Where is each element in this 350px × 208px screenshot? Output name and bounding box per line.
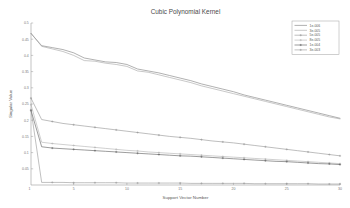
series-marker [73, 144, 75, 146]
series-marker [158, 134, 160, 136]
series-marker [158, 182, 160, 184]
series-marker [307, 151, 309, 153]
series-marker [73, 182, 75, 184]
series-marker [339, 155, 341, 157]
legend-label-8e-005: 8e-005 [310, 38, 321, 42]
series-marker [73, 148, 75, 150]
series-marker [286, 161, 288, 163]
y-tick-label: 0.2 [24, 119, 29, 123]
x-tick-label: 10 [125, 187, 129, 191]
series-marker [264, 183, 266, 185]
chart-title: Cubic Polynomial Kernel [151, 8, 221, 16]
series-marker [158, 152, 160, 154]
series-marker [115, 182, 117, 184]
series-marker [264, 146, 266, 148]
series-marker [243, 143, 245, 145]
plot-area: Cubic Polynomial Kernel0.050.10.150.20.2… [8, 8, 342, 200]
y-axis-label: Singular Value [8, 89, 13, 118]
series-marker [222, 182, 224, 184]
series-marker [243, 158, 245, 160]
series-marker [286, 148, 288, 150]
series-marker [179, 153, 181, 155]
y-tick-label: 0.5 [24, 21, 29, 25]
series-line-3e-003 [31, 110, 340, 184]
series-marker [136, 150, 138, 152]
y-tick-label: 0.1 [24, 151, 29, 155]
x-tick-label: 15 [178, 187, 182, 191]
series-marker [136, 131, 138, 133]
series-marker [243, 182, 245, 184]
series-marker [158, 153, 160, 155]
series-marker [94, 126, 96, 128]
chart-figure: Cubic Polynomial Kernel0.050.10.150.20.2… [0, 0, 350, 208]
series-marker [94, 182, 96, 184]
x-tick-label: 25 [285, 187, 289, 191]
x-tick-label: 5 [73, 187, 75, 191]
series-marker [179, 155, 181, 157]
x-tick-label: 1 [29, 187, 31, 191]
y-tick-label: 0.3 [24, 86, 29, 90]
series-marker [200, 182, 202, 184]
series-marker [200, 139, 202, 141]
series-marker [115, 129, 117, 131]
y-tick-label: 0.05 [22, 167, 29, 171]
y-tick-label: 0.4 [24, 54, 29, 58]
y-tick-label: 0.35 [22, 70, 29, 74]
series-marker [73, 124, 75, 126]
series-marker [136, 152, 138, 154]
series-marker [136, 182, 138, 184]
series-marker [51, 181, 53, 183]
chart-canvas: Cubic Polynomial Kernel0.050.10.150.20.2… [0, 0, 350, 208]
series-marker [51, 147, 53, 149]
legend-label-3e-003: 3e-003 [310, 48, 321, 52]
series-marker [51, 142, 53, 144]
series-marker [30, 97, 32, 99]
series-marker [179, 182, 181, 184]
y-tick-label: 0.15 [22, 135, 29, 139]
series-marker [264, 160, 266, 162]
series-marker [286, 183, 288, 185]
series-marker [94, 150, 96, 152]
legend-label-5e-005: 5e-005 [310, 33, 321, 37]
series-marker [307, 162, 309, 164]
x-tick-label: 30 [338, 187, 342, 191]
x-axis-label: Support Vector Number [163, 195, 209, 200]
legend-label-1e-006: 1e-006 [310, 24, 321, 28]
series-line-8e-005 [31, 105, 340, 164]
legend-label-3e-005: 3e-005 [310, 29, 321, 33]
series-marker [115, 151, 117, 153]
y-tick-label: 0.45 [22, 38, 29, 42]
x-tick-label: 20 [231, 187, 235, 191]
y-tick-label: 0.25 [22, 102, 29, 106]
series-marker [115, 148, 117, 150]
series-marker [51, 120, 53, 122]
series-marker [94, 146, 96, 148]
series-marker [307, 183, 309, 185]
series-marker [222, 141, 224, 143]
legend-label-1e-004: 1e-004 [310, 43, 321, 47]
series-line-1e-004 [31, 110, 340, 164]
series-marker [328, 153, 330, 155]
series-marker [179, 136, 181, 138]
series-marker [222, 157, 224, 159]
series-marker [200, 156, 202, 158]
